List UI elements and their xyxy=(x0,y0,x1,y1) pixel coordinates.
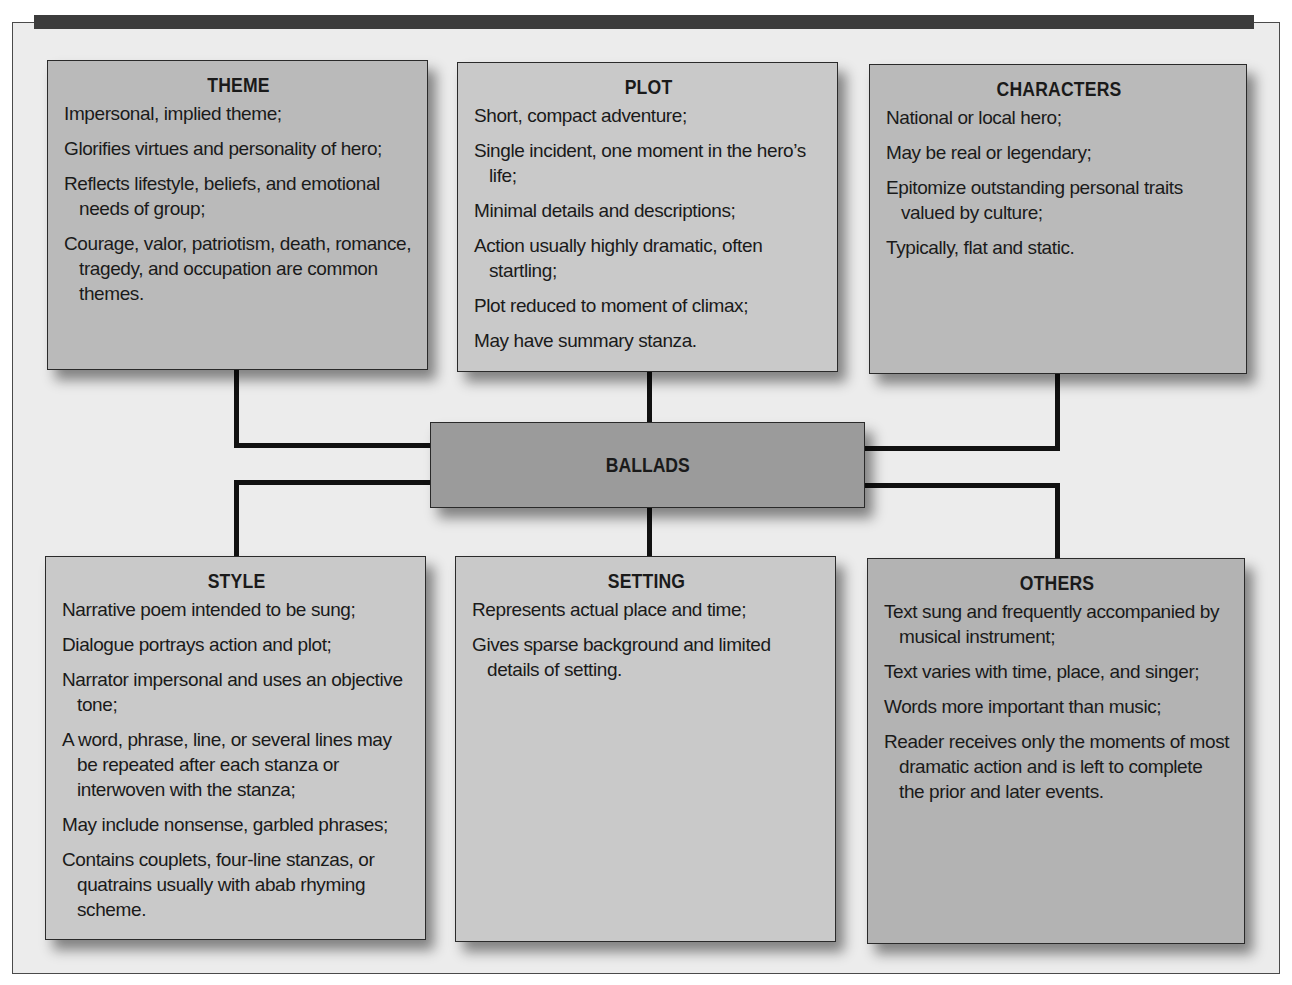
others-list: Text sung and frequently accompanied by … xyxy=(884,599,1230,804)
connector-characters-vertical xyxy=(1055,372,1060,451)
others-box: OTHERS Text sung and frequently accompan… xyxy=(867,558,1245,944)
others-item: Text sung and frequently accompanied by … xyxy=(884,599,1230,649)
characters-item: National or local hero; xyxy=(886,105,1232,130)
plot-item: Plot reduced to moment of climax; xyxy=(474,293,823,318)
connector-style-vertical xyxy=(234,480,239,558)
style-item: Narrative poem intended to be sung; xyxy=(62,597,411,622)
theme-item: Impersonal, implied theme; xyxy=(64,101,413,126)
connector-theme-vertical xyxy=(234,368,239,448)
characters-item: May be real or legendary; xyxy=(886,140,1232,165)
connector-style-horizontal xyxy=(234,480,432,485)
connector-others-horizontal xyxy=(863,483,1060,488)
style-item: Narrator impersonal and uses an objectiv… xyxy=(62,667,411,717)
style-list: Narrative poem intended to be sung; Dial… xyxy=(62,597,411,922)
connector-theme-horizontal xyxy=(234,443,432,448)
setting-item: Represents actual place and time; xyxy=(472,597,821,622)
connector-plot-vertical xyxy=(647,370,652,424)
plot-item: Action usually highly dramatic, often st… xyxy=(474,233,823,283)
theme-item: Reflects lifestyle, beliefs, and emotion… xyxy=(64,171,413,221)
characters-list: National or local hero; May be real or l… xyxy=(886,105,1232,260)
setting-box: SETTING Represents actual place and time… xyxy=(455,556,836,942)
setting-list: Represents actual place and time; Gives … xyxy=(472,597,821,682)
ballads-center-box: BALLADS xyxy=(430,422,865,508)
connector-others-vertical xyxy=(1055,483,1060,561)
characters-box: CHARACTERS National or local hero; May b… xyxy=(869,64,1247,374)
theme-box: THEME Impersonal, implied theme; Glorifi… xyxy=(47,60,428,370)
plot-item: Short, compact adventure; xyxy=(474,103,823,128)
style-title: STYLE xyxy=(83,569,390,593)
header-bar xyxy=(34,15,1254,29)
others-item: Text varies with time, place, and singer… xyxy=(884,659,1230,684)
theme-title: THEME xyxy=(85,73,392,97)
characters-item: Epitomize outstanding personal traits va… xyxy=(886,175,1232,225)
plot-item: May have summary stanza. xyxy=(474,328,823,353)
style-item: May include nonsense, garbled phrases; xyxy=(62,812,411,837)
plot-item: Single incident, one moment in the hero’… xyxy=(474,138,823,188)
style-item: Dialogue portrays action and plot; xyxy=(62,632,411,657)
style-item: A word, phrase, line, or several lines m… xyxy=(62,727,411,802)
others-item: Reader receives only the moments of most… xyxy=(884,729,1230,804)
plot-title: PLOT xyxy=(495,75,802,99)
plot-item: Minimal details and descriptions; xyxy=(474,198,823,223)
plot-box: PLOT Short, compact adventure; Single in… xyxy=(457,62,838,372)
plot-list: Short, compact adventure; Single inciden… xyxy=(474,103,823,353)
setting-title: SETTING xyxy=(493,569,800,593)
others-title: OTHERS xyxy=(905,571,1209,595)
connector-characters-horizontal xyxy=(863,446,1060,451)
style-item: Contains couplets, four-line stanzas, or… xyxy=(62,847,411,922)
ballads-label: BALLADS xyxy=(605,454,689,477)
characters-item: Typically, flat and static. xyxy=(886,235,1232,260)
connector-setting-vertical xyxy=(647,506,652,558)
style-box: STYLE Narrative poem intended to be sung… xyxy=(45,556,426,940)
theme-list: Impersonal, implied theme; Glorifies vir… xyxy=(64,101,413,306)
theme-item: Courage, valor, patriotism, death, roman… xyxy=(64,231,413,306)
setting-item: Gives sparse background and limited deta… xyxy=(472,632,821,682)
theme-item: Glorifies virtues and personality of her… xyxy=(64,136,413,161)
others-item: Words more important than music; xyxy=(884,694,1230,719)
characters-title: CHARACTERS xyxy=(907,77,1211,101)
